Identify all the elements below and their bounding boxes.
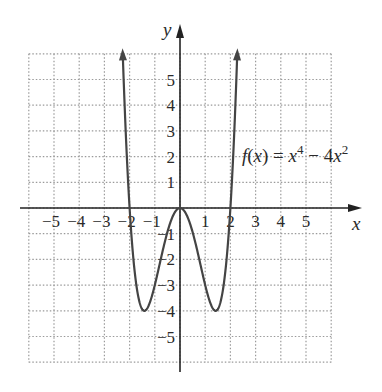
x-tick-label: −5 <box>42 212 60 231</box>
x-tick-label: 3 <box>251 212 260 231</box>
function-graph: −5−4−3−2−11234554321−1−2−3−4−5 x y f(x) … <box>0 0 382 392</box>
y-tick-label: −4 <box>157 302 176 321</box>
x-tick-label: −3 <box>92 212 110 231</box>
y-axis-label: y <box>161 19 172 40</box>
x-tick-label: −2 <box>118 212 136 231</box>
axes <box>20 24 362 372</box>
curve-arrow-icon <box>119 48 127 60</box>
x-axis-arrow-icon <box>348 204 362 212</box>
y-tick-label: 1 <box>167 173 176 192</box>
x-tick-label: 1 <box>201 212 210 231</box>
x-tick-label: 5 <box>302 212 311 231</box>
x-tick-label: 4 <box>277 212 286 231</box>
x-axis-label: x <box>351 213 361 234</box>
function-label: f(x) = x4 − 4x2 <box>242 142 348 167</box>
y-tick-label: 5 <box>167 71 176 90</box>
y-tick-label: 2 <box>167 148 176 167</box>
y-axis-arrow-icon <box>176 24 184 38</box>
curve-arrow-icon <box>233 48 241 60</box>
x-tick-label: −4 <box>67 212 86 231</box>
y-tick-label: 4 <box>167 96 176 115</box>
y-tick-label: 3 <box>167 122 176 141</box>
y-tick-label: −3 <box>157 276 175 295</box>
y-tick-label: −5 <box>157 328 175 347</box>
